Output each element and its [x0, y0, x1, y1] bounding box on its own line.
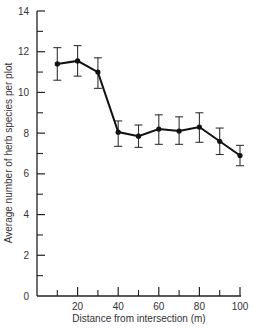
- series-line: [57, 61, 240, 156]
- y-tick-label: 0: [23, 291, 29, 302]
- data-points: [55, 58, 243, 158]
- x-tick-label: 20: [72, 301, 84, 312]
- data-point: [136, 134, 141, 139]
- data-point: [116, 130, 121, 135]
- y-axis-label: Average number of herb species per plot: [3, 63, 14, 244]
- data-point: [55, 61, 60, 66]
- y-tick-label: 8: [23, 128, 29, 139]
- data-point: [237, 153, 242, 158]
- y-tick-label: 4: [23, 209, 29, 220]
- x-tick-label: 60: [153, 301, 165, 312]
- data-point: [197, 124, 202, 129]
- axes: [37, 11, 241, 296]
- x-tick-label: 40: [113, 301, 125, 312]
- y-tick-label: 10: [18, 87, 30, 98]
- x-tick-label: 80: [194, 301, 206, 312]
- line-chart: 02468101214 20406080100 Distance from in…: [0, 0, 254, 328]
- data-point: [217, 139, 222, 144]
- data-point: [177, 129, 182, 134]
- y-tick-label: 6: [23, 168, 29, 179]
- data-point: [156, 126, 161, 131]
- x-ticks: 20406080100: [57, 287, 248, 312]
- data-point: [75, 58, 80, 63]
- x-axis-label: Distance from intersection (m): [72, 313, 205, 324]
- y-tick-label: 2: [23, 250, 29, 261]
- y-tick-label: 12: [18, 46, 30, 57]
- y-tick-label: 14: [18, 6, 30, 17]
- x-tick-label: 100: [232, 301, 249, 312]
- data-point: [95, 69, 100, 74]
- y-ticks: 02468101214: [18, 6, 45, 302]
